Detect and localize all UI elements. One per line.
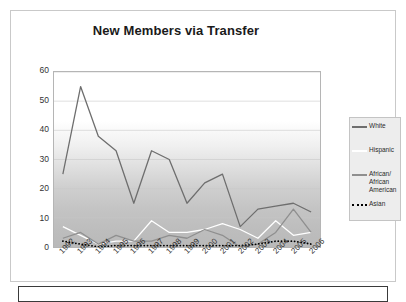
y-axis-tick-label: 10	[15, 214, 49, 223]
y-axis: 0102030405060	[11, 11, 49, 251]
legend-swatch-icon	[352, 123, 367, 131]
legend-item-label: African/ African American	[367, 170, 396, 194]
y-axis-tick-label: 20	[15, 184, 49, 193]
chart-card: New Members via Transfer 0102030405060 1…	[10, 10, 396, 282]
legend-item-label: White	[367, 122, 386, 130]
plot-area	[53, 71, 321, 248]
y-axis-tick-label: 40	[15, 125, 49, 134]
legend-swatch-icon	[352, 147, 367, 155]
legend-item[interactable]: African/ African American	[352, 170, 400, 194]
legend-item[interactable]: White	[352, 122, 400, 131]
legend-swatch-icon	[352, 201, 367, 209]
y-axis-tick-label: 0	[15, 243, 49, 252]
legend-swatch-icon	[352, 171, 367, 179]
legend-item-label: Hispanic	[367, 146, 394, 154]
series-line	[63, 87, 311, 227]
chart-title: New Members via Transfer	[11, 23, 341, 38]
lower-panel	[18, 286, 388, 302]
y-axis-tick-label: 50	[15, 96, 49, 105]
legend-item[interactable]: Asian	[352, 200, 400, 209]
legend-item-label: Asian	[367, 200, 385, 208]
plot-svg	[54, 72, 320, 247]
legend-item[interactable]: Hispanic	[352, 146, 400, 155]
y-axis-tick-label: 30	[15, 155, 49, 164]
y-axis-tick-label: 60	[15, 66, 49, 75]
chart-legend: WhiteHispanicAfrican/ African AmericanAs…	[349, 117, 401, 221]
